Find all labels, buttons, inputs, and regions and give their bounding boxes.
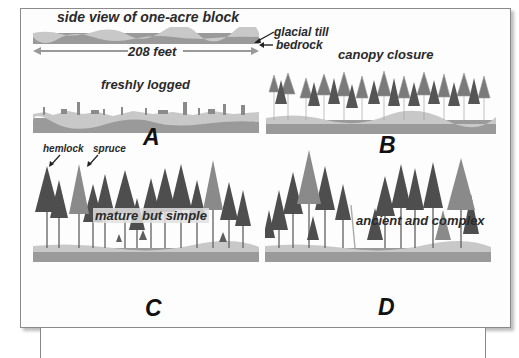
panel-c-letter: C [145, 297, 162, 320]
width-label: 208 feet [128, 44, 176, 59]
panel-d-scene [265, 150, 491, 262]
panel-b-caption: canopy closure [338, 47, 433, 62]
bedrock-arrow [258, 41, 274, 49]
panel-a-letter: A [143, 126, 160, 149]
legend-title: side view of one-acre block [57, 9, 239, 25]
panel-d-letter: D [378, 296, 395, 319]
lower-frame [40, 328, 486, 358]
panel-b-scene [266, 70, 496, 134]
panel-c-caption: mature but simple [93, 208, 209, 223]
hemlock-label: hemlock [43, 143, 84, 154]
panel-a-caption: freshly logged [101, 77, 190, 92]
legend-profile [33, 27, 259, 44]
panel-d-caption: ancient and complex [356, 213, 485, 228]
glacial-till-label: glacial till [274, 25, 329, 39]
bedrock-label: bedrock [276, 38, 323, 52]
spruce-label: spruce [93, 143, 126, 154]
